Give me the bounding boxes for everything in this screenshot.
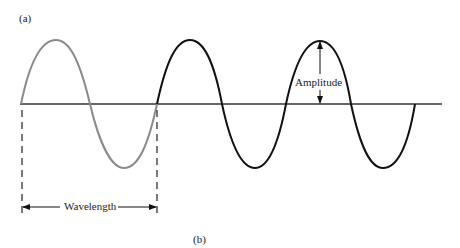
wavelength-label: Wavelength <box>63 201 117 212</box>
amplitude-label: Amplitude <box>294 77 343 88</box>
panel-b-label: (b) <box>193 234 206 245</box>
panel-a-label: (a) <box>19 13 31 24</box>
